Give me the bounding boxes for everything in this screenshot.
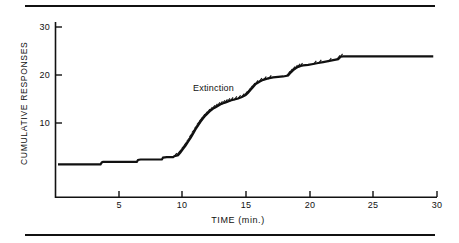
cumulative-response-curve (58, 56, 433, 164)
x-axis-title: TIME (min.) (148, 215, 328, 225)
x-tick-label-5: 5 (108, 201, 130, 210)
annotation-extinction: Extinction (193, 83, 234, 93)
x-ticks-group (119, 191, 437, 197)
y-tick-label-30: 30 (28, 23, 50, 32)
cumulative-record-chart: 30 20 10 5 10 15 20 25 30 CUMULATIVE RES… (0, 0, 459, 243)
y-tick-label-20: 20 (28, 71, 50, 80)
y-ticks-group (56, 27, 63, 123)
axes-group (55, 22, 437, 198)
x-tick-label-20: 20 (299, 201, 321, 210)
x-tick-label-25: 25 (362, 201, 384, 210)
x-tick-label-15: 15 (235, 201, 257, 210)
y-tick-label-10: 10 (28, 119, 50, 128)
x-tick-label-30: 30 (426, 201, 448, 210)
chart-canvas (0, 0, 459, 243)
x-tick-label-10: 10 (171, 201, 193, 210)
y-axis-title: CUMULATIVE RESPONSES (19, 45, 29, 165)
figure-container: 30 20 10 5 10 15 20 25 30 CUMULATIVE RES… (0, 0, 459, 243)
response-hash-marks (174, 54, 343, 157)
data-series-group (58, 54, 433, 164)
